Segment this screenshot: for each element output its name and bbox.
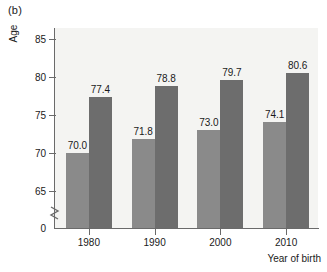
- bar-2000-series-light: [197, 130, 220, 228]
- y-tick-label: 75: [16, 110, 46, 121]
- bar-2000-series-dark: [220, 80, 243, 228]
- bar-value-1990-series-dark: 78.8: [144, 73, 188, 84]
- x-tick-1980: [89, 229, 90, 235]
- x-tick-label-1990: 1990: [125, 237, 185, 248]
- bar-value-2010-series-dark: 80.6: [276, 60, 320, 71]
- x-tick-label-2000: 2000: [190, 237, 250, 248]
- y-tick-75: [49, 115, 56, 116]
- y-tick-80: [49, 77, 56, 78]
- bar-1980-series-dark: [89, 97, 112, 228]
- bar-value-1980-series-dark: 77.4: [78, 84, 122, 95]
- y-tick-label: 65: [16, 185, 46, 196]
- figure-panel-b: (b) Age 8580757065 0 70.077.471.878.873.…: [0, 0, 327, 272]
- bar-1980-series-light: [66, 153, 89, 228]
- bar-2010-series-light: [263, 122, 286, 228]
- x-tick-2010: [286, 229, 287, 235]
- y-tick-65: [49, 191, 56, 192]
- x-tick-1990: [155, 229, 156, 235]
- y-tick-label: 80: [16, 72, 46, 83]
- y-tick-85: [49, 39, 56, 40]
- y-axis-line: [54, 28, 55, 229]
- bar-1990-series-dark: [155, 86, 178, 228]
- bar-1990-series-light: [132, 139, 155, 228]
- x-tick-2000: [220, 229, 221, 235]
- y-axis-break-icon: [48, 206, 62, 222]
- y-origin-label: 0: [16, 223, 46, 234]
- bar-2010-series-dark: [286, 73, 309, 228]
- bar-value-2000-series-dark: 79.7: [210, 67, 254, 78]
- x-axis-title: Year of birth: [267, 253, 321, 264]
- y-tick-70: [49, 153, 56, 154]
- y-tick-label: 70: [16, 147, 46, 158]
- x-tick-label-2010: 2010: [256, 237, 316, 248]
- y-tick-label: 85: [16, 34, 46, 45]
- x-axis-line: [54, 228, 319, 229]
- x-tick-label-1980: 1980: [59, 237, 119, 248]
